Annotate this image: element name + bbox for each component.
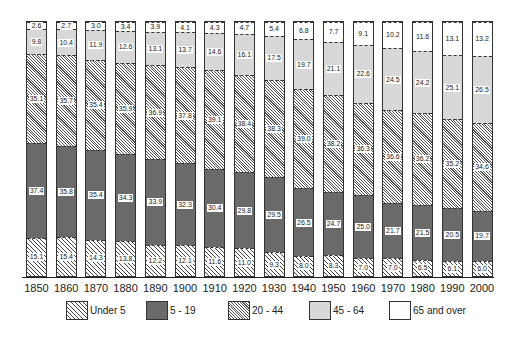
data-label: 24.7 xyxy=(326,220,342,228)
segment-45-64: 13.7 xyxy=(176,32,195,67)
segment-20-44: 35.1 xyxy=(27,54,46,143)
segment-65andover: 7.7 xyxy=(324,22,343,42)
data-label: 19.7 xyxy=(474,232,490,240)
data-label: 36.6 xyxy=(385,153,401,161)
data-label: 21.7 xyxy=(385,227,401,235)
bar-1960: 7.025.036.322.69.1 xyxy=(353,21,374,277)
data-label: 6.5 xyxy=(417,264,429,272)
segment-65andover: 4.3 xyxy=(205,22,224,33)
bar-1970: 7.021.736.624.510.2 xyxy=(382,21,403,277)
segment-under5: 15.4 xyxy=(57,237,76,276)
legend-label: 20 - 44 xyxy=(252,305,283,316)
bar-1990: 6.120.535.225.113.1 xyxy=(442,21,463,277)
segment-65andover: 2.6 xyxy=(27,22,46,29)
bar-1910: 11.630.439.114.64.3 xyxy=(204,21,225,277)
bar-1920: 11.029.838.416.14.7 xyxy=(234,21,255,277)
legend-item: 65 and over xyxy=(389,301,466,320)
segment-45-64: 13.1 xyxy=(146,32,165,65)
data-label: 35.2 xyxy=(444,160,460,168)
data-label: 3.4 xyxy=(120,23,132,31)
segment-under5: 14.3 xyxy=(86,240,105,276)
segment-under5: 7.0 xyxy=(383,258,402,276)
segment-65andover: 2.7 xyxy=(57,22,76,29)
segment-45-64: 24.5 xyxy=(383,48,402,110)
segment-45-64: 10.4 xyxy=(57,29,76,55)
data-label: 34.3 xyxy=(118,194,134,202)
segment-5-19: 32.3 xyxy=(176,163,195,245)
segment-65andover: 4.7 xyxy=(235,22,254,34)
segment-5-19: 21.7 xyxy=(383,203,402,258)
segment-5-19: 34.3 xyxy=(116,154,135,241)
legend-swatch-icon xyxy=(309,301,331,320)
bar-1850: 15.137.435.19.82.6 xyxy=(26,21,47,277)
segment-20-44: 38.4 xyxy=(235,75,254,173)
segment-5-19: 33.9 xyxy=(146,159,165,245)
data-label: 25.0 xyxy=(355,223,371,231)
segment-45-64: 21.1 xyxy=(324,42,343,96)
data-label: 8.0 xyxy=(298,262,310,270)
data-label: 6.8 xyxy=(298,27,310,35)
segment-65andover: 10.2 xyxy=(383,22,402,48)
segment-under5: 12.1 xyxy=(176,245,195,276)
data-label: 37.8 xyxy=(177,112,193,120)
segment-5-19: 26.5 xyxy=(294,188,313,255)
segment-65andover: 6.8 xyxy=(294,22,313,39)
segment-under5: 6.5 xyxy=(413,260,432,277)
bar-1870: 14.335.435.411.93.0 xyxy=(85,21,106,277)
segment-20-44: 36.6 xyxy=(383,110,402,203)
data-label: 11.6 xyxy=(415,33,430,41)
legend-swatch-icon xyxy=(66,301,88,320)
data-label: 6.1 xyxy=(446,265,458,273)
data-label: 13.7 xyxy=(177,46,193,54)
segment-20-44: 38.3 xyxy=(265,80,284,177)
data-label: 17.5 xyxy=(266,54,282,62)
segment-45-64: 25.1 xyxy=(443,55,462,119)
segment-under5: 15.1 xyxy=(27,238,46,276)
data-label: 7.0 xyxy=(357,264,369,272)
segment-20-44: 35.4 xyxy=(86,60,105,150)
legend-item: Under 5 xyxy=(66,301,126,320)
segment-5-19: 24.7 xyxy=(324,192,343,255)
bar-2000: 6.019.734.626.513.2 xyxy=(472,21,493,277)
legend-swatch-icon xyxy=(146,301,168,320)
segment-20-44: 37.8 xyxy=(176,67,195,163)
segment-under5: 11.6 xyxy=(205,247,224,276)
data-label: 13.2 xyxy=(474,35,490,43)
data-label: 29.5 xyxy=(266,211,282,219)
data-label: 26.5 xyxy=(474,86,490,94)
data-label: 32.3 xyxy=(177,201,193,209)
data-label: 12.2 xyxy=(147,257,163,265)
data-label: 7.7 xyxy=(328,28,340,36)
data-label: 19.7 xyxy=(296,61,312,69)
segment-5-19: 37.4 xyxy=(27,143,46,238)
data-label: 13.1 xyxy=(444,35,460,43)
data-label: 12.1 xyxy=(177,257,193,265)
data-label: 13.1 xyxy=(147,45,163,53)
segment-under5: 8.0 xyxy=(294,256,313,276)
data-label: 11.9 xyxy=(88,41,103,49)
data-label: 35.1 xyxy=(29,95,45,103)
bar-1880: 13.834.335.912.63.4 xyxy=(115,21,136,277)
segment-under5: 9.3 xyxy=(265,252,284,276)
bar-1890: 12.233.936.913.13.9 xyxy=(145,21,166,277)
data-label: 3.9 xyxy=(149,23,161,31)
bar-1860: 15.435.835.710.42.7 xyxy=(56,21,77,277)
segment-under5: 13.8 xyxy=(116,241,135,276)
segment-65andover: 13.1 xyxy=(443,22,462,55)
legend-label: Under 5 xyxy=(90,305,126,316)
x-tick-label: 2000 xyxy=(462,282,502,294)
segment-under5: 12.2 xyxy=(146,245,165,276)
segment-45-64: 24.2 xyxy=(413,51,432,112)
segment-65andover: 11.6 xyxy=(413,22,432,51)
segment-5-19: 20.5 xyxy=(443,208,462,260)
legend-item: 5 - 19 xyxy=(146,301,196,320)
legend-label: 45 - 64 xyxy=(333,305,364,316)
data-label: 34.6 xyxy=(474,163,490,171)
data-label: 3.0 xyxy=(90,22,102,30)
data-label: 4.7 xyxy=(239,24,251,32)
segment-20-44: 35.9 xyxy=(116,63,135,154)
data-label: 37.4 xyxy=(29,187,45,195)
data-label: 8.3 xyxy=(328,262,340,270)
segment-65andover: 3.4 xyxy=(116,22,135,31)
data-label: 20.5 xyxy=(444,231,460,239)
